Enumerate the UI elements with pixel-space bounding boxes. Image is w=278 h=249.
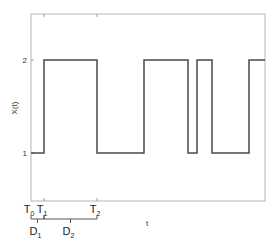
- plot-frame: [31, 14, 265, 201]
- duration-bracket: [44, 215, 97, 219]
- duration-subscript: 2: [71, 232, 75, 239]
- signal-line: [31, 60, 265, 153]
- time-marker-label: T1: [37, 203, 48, 217]
- step-chart: 12 X(t) t T0T1T2 D1D2: [0, 0, 278, 249]
- y-tick-label: 1: [23, 149, 28, 158]
- x-axis-label: t: [146, 219, 149, 228]
- time-marker-label: T2: [90, 203, 101, 217]
- duration-label: D2: [63, 225, 75, 239]
- time-marker-label: T0: [24, 203, 35, 217]
- y-tick-label: 2: [23, 56, 28, 65]
- duration-subscript: 1: [38, 232, 42, 239]
- y-axis-label: X(t): [10, 101, 19, 114]
- duration-label: D1: [30, 225, 42, 239]
